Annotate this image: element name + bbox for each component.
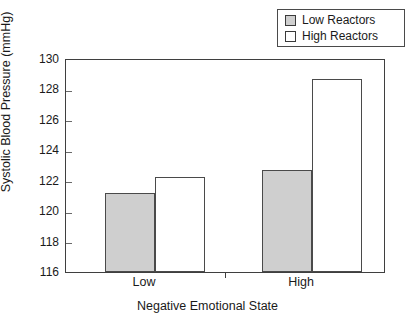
x-tick-mark-group-separator	[225, 272, 226, 278]
y-axis-title: Systolic Blood Pressure (mmHg)	[0, 0, 13, 252]
y-tick-label-130: 130	[19, 53, 59, 65]
y-tick-mark-120	[66, 213, 72, 214]
y-tick-label-120: 120	[19, 205, 59, 217]
y-tick-mark-124	[66, 152, 72, 153]
bar-low-state-low-reactors	[105, 193, 155, 273]
y-tick-mark-118	[66, 243, 72, 244]
bar-high-state-low-reactors	[262, 170, 312, 272]
legend-swatch-low-reactors-icon	[285, 15, 296, 26]
y-tick-mark-128	[66, 91, 72, 92]
bar-high-state-high-reactors	[312, 79, 362, 272]
y-tick-label-126: 126	[19, 114, 59, 126]
y-tick-label-116: 116	[19, 266, 59, 278]
y-tick-mark-126	[66, 121, 72, 122]
bar-chart: Low Reactors High Reactors 130 128 126 1…	[0, 0, 415, 323]
x-tick-label-low: Low	[104, 276, 184, 289]
plot-area	[65, 59, 385, 273]
legend-item-high-reactors: High Reactors	[285, 29, 398, 44]
legend-swatch-high-reactors-icon	[285, 31, 296, 42]
y-tick-label-118: 118	[19, 236, 59, 248]
bar-low-state-high-reactors	[155, 177, 205, 272]
y-tick-label-122: 122	[19, 175, 59, 187]
chart-legend: Low Reactors High Reactors	[277, 9, 405, 47]
y-tick-label-128: 128	[19, 83, 59, 95]
x-tick-label-high: High	[261, 276, 341, 289]
x-axis-title: Negative Emotional State	[0, 299, 415, 313]
legend-label-low-reactors: Low Reactors	[302, 14, 375, 27]
y-tick-mark-122	[66, 182, 72, 183]
plot-inner	[66, 60, 384, 272]
y-tick-label-124: 124	[19, 144, 59, 156]
legend-item-low-reactors: Low Reactors	[285, 13, 398, 28]
legend-label-high-reactors: High Reactors	[302, 30, 378, 43]
